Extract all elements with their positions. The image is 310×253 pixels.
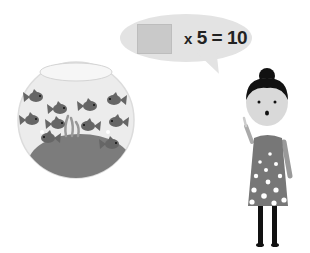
- left-leg: [258, 206, 263, 244]
- bowl-rim: [40, 63, 112, 81]
- equals-sign: =: [211, 27, 222, 48]
- result: 10: [227, 27, 247, 48]
- girl-illustration: [238, 64, 304, 250]
- dress: [248, 135, 288, 206]
- fishbowl-illustration: [14, 52, 138, 182]
- equation-text: x 5 = 10: [184, 27, 247, 49]
- raised-arm: [246, 126, 252, 142]
- answer-blank-box[interactable]: [137, 24, 172, 54]
- right-leg: [272, 206, 277, 244]
- operator: x: [184, 30, 192, 47]
- multiplier: 5: [197, 27, 207, 48]
